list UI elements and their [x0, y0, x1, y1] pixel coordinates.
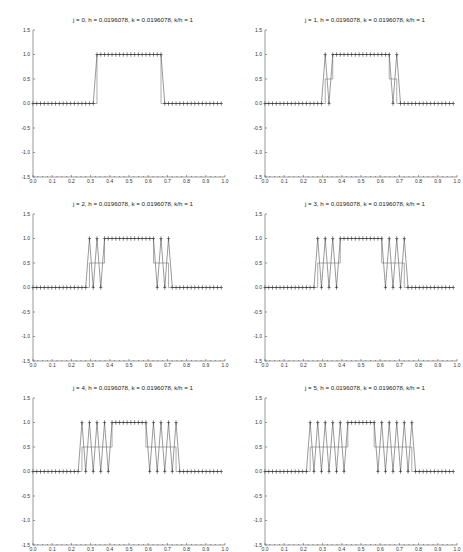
data-point-marker: [286, 101, 289, 105]
data-point-marker: [216, 101, 219, 105]
data-point-marker: [429, 101, 432, 105]
data-point-marker: [388, 420, 391, 424]
x-tick-label: 0.4: [338, 546, 345, 552]
x-tick-label: 1.0: [454, 546, 461, 552]
y-tick-label: 1.0: [255, 51, 262, 57]
data-point-marker: [148, 236, 151, 240]
plot-j4: j = 4, h = 0.0196078, k = 0.0196078, k/h…: [0, 368, 231, 552]
y-tick-label: -1.5: [253, 174, 262, 180]
data-point-marker: [327, 285, 330, 289]
data-point-marker: [267, 285, 270, 289]
data-point-marker: [361, 52, 364, 56]
data-point-marker: [275, 469, 278, 473]
data-point-marker: [190, 469, 193, 473]
data-point-marker: [380, 420, 383, 424]
y-tick-label: -1.5: [21, 174, 30, 180]
data-point-marker: [418, 285, 421, 289]
y-tick-label: 1.0: [23, 51, 30, 57]
data-point-marker: [118, 420, 121, 424]
plot-title: j = 3, h = 0.0196078, k = 0.0196078, k/h…: [304, 200, 426, 207]
data-point-marker: [99, 469, 102, 473]
data-point-marker: [422, 285, 425, 289]
x-tick-label: 0.9: [434, 546, 441, 552]
data-point-marker: [69, 285, 72, 289]
data-point-marker: [84, 285, 87, 289]
data-point-marker: [178, 469, 181, 473]
y-tick-label: 1.5: [23, 395, 30, 401]
data-point-marker: [129, 236, 132, 240]
data-point-marker: [152, 52, 155, 56]
data-point-marker: [133, 420, 136, 424]
data-point-marker: [174, 101, 177, 105]
data-point-marker: [316, 101, 319, 105]
x-tick-label: 1.0: [222, 546, 229, 552]
data-point-marker: [309, 285, 312, 289]
data-point-marker: [384, 52, 387, 56]
plot-panel-j5: j = 5, h = 0.0196078, k = 0.0196078, k/h…: [232, 368, 463, 552]
data-point-marker: [339, 52, 342, 56]
data-point-marker: [58, 469, 61, 473]
data-point-marker: [178, 285, 181, 289]
data-point-marker: [410, 420, 413, 424]
plot-panel-j1: j = 1, h = 0.0196078, k = 0.0196078, k/h…: [232, 0, 463, 184]
y-tick-label: 0.0: [255, 100, 262, 106]
data-point-marker: [84, 101, 87, 105]
data-point-marker: [171, 469, 174, 473]
data-point-marker: [263, 285, 266, 289]
data-point-marker: [201, 101, 204, 105]
data-point-marker: [80, 285, 83, 289]
y-tick-label: -1.0: [253, 149, 262, 155]
data-point-marker: [163, 101, 166, 105]
data-point-marker: [212, 285, 215, 289]
data-point-marker: [278, 101, 281, 105]
data-point-marker: [316, 236, 319, 240]
data-point-marker: [118, 236, 121, 240]
data-point-marker: [88, 236, 91, 240]
data-point-marker: [425, 285, 428, 289]
plot-panel-j0: j = 0, h = 0.0196078, k = 0.0196078, k/h…: [0, 0, 231, 184]
data-point-marker: [309, 101, 312, 105]
data-point-marker: [365, 52, 368, 56]
data-point-marker: [39, 101, 42, 105]
plot-title: j = 4, h = 0.0196078, k = 0.0196078, k/h…: [72, 384, 194, 391]
y-tick-label: -1.0: [21, 149, 30, 155]
data-point-marker: [444, 101, 447, 105]
y-tick-label: 0.0: [23, 100, 30, 106]
data-point-marker: [320, 101, 323, 105]
y-tick-label: 0.5: [23, 444, 30, 450]
x-tick-label: 0.4: [106, 546, 113, 552]
data-point-marker: [365, 236, 368, 240]
data-point-marker: [444, 285, 447, 289]
data-point-marker: [346, 236, 349, 240]
y-tick-label: -0.5: [21, 125, 30, 131]
data-point-marker: [342, 236, 345, 240]
data-point-marker: [369, 52, 372, 56]
y-tick-label: -1.5: [253, 542, 262, 548]
data-point-marker: [159, 236, 162, 240]
data-point-marker: [174, 285, 177, 289]
y-tick-label: 0.0: [23, 468, 30, 474]
data-point-marker: [148, 52, 151, 56]
data-point-marker: [208, 469, 211, 473]
data-point-marker: [201, 469, 204, 473]
data-point-marker: [282, 101, 285, 105]
x-tick-label: 0.0: [30, 546, 37, 552]
data-point-marker: [391, 101, 394, 105]
x-tick-label: 0.0: [262, 546, 269, 552]
plot-title: j = 1, h = 0.0196078, k = 0.0196078, k/h…: [304, 16, 426, 23]
plot-j0: j = 0, h = 0.0196078, k = 0.0196078, k/h…: [0, 0, 231, 184]
data-point-marker: [174, 420, 177, 424]
data-point-marker: [208, 285, 211, 289]
y-tick-label: 1.0: [255, 235, 262, 241]
data-point-marker: [346, 52, 349, 56]
data-point-marker: [43, 469, 46, 473]
plot-j5: j = 5, h = 0.0196078, k = 0.0196078, k/h…: [232, 368, 463, 552]
data-point-marker: [167, 236, 170, 240]
data-point-marker: [278, 285, 281, 289]
exact-solution-line: [33, 55, 221, 104]
data-point-marker: [144, 52, 147, 56]
data-point-marker: [171, 285, 174, 289]
data-point-marker: [50, 285, 53, 289]
y-tick-label: 1.0: [255, 419, 262, 425]
data-point-marker: [263, 469, 266, 473]
